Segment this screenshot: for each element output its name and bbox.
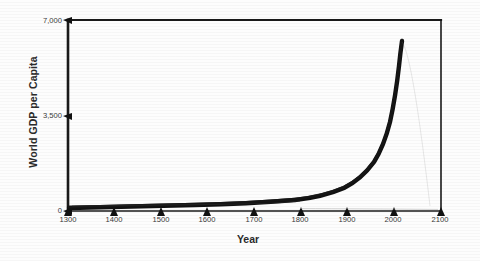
plot-area: [0, 0, 480, 261]
chart-figure: World GDP per Capita 7,000 3,500 0 1300 …: [0, 0, 480, 261]
gdp-curve: [69, 40, 438, 209]
axis-frame: [68, 20, 441, 211]
